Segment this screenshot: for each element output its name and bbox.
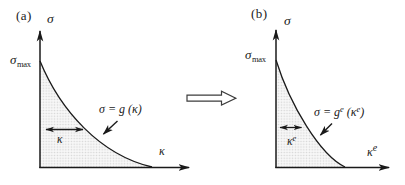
x-axis-label-b: κe [367,143,377,158]
y-axis-label-b: σ [284,14,291,28]
kappa-range-label-a: κ [57,134,63,146]
implies-arrow-icon [187,91,236,105]
curve-equation-b: σ = ge (κe) [314,105,364,118]
kappa-range-label-b: κe [287,134,296,148]
y-axis-label-a: σ [47,12,54,26]
softening-curves-figure: (a) σ σmax σ = g (κ) κ κ (b) σ σmax σ = … [0,0,405,185]
equation-pointer-arrow-a [104,121,118,134]
equation-pointer-arrow-b [321,124,333,136]
panel-a-tag: (a) [16,9,32,22]
curve-equation-a: σ = g (κ) [99,103,142,115]
panel-a-plot [39,31,189,168]
sigma-max-label-a: σmax [10,53,31,68]
figure-canvas [0,0,405,185]
panel-b-tag: (b) [251,7,268,20]
sigma-max-label-b: σmax [245,48,266,63]
x-axis-label-a: κ [159,145,165,157]
